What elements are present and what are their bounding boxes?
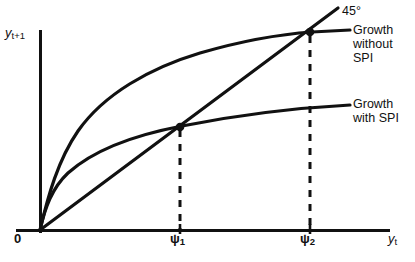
growth-spi-diagram: yt+1 yt 0 ψ1 ψ2 45° Growth without SPI G… [0, 0, 415, 262]
x-axis-label: yt [388, 232, 397, 248]
curve-growth-without-spi [40, 30, 350, 230]
y-axis-label: yt+1 [5, 26, 25, 42]
y-axis-label-subscript: t+1 [12, 30, 25, 41]
annotation-growth-without-spi: Growth without SPI [353, 23, 393, 65]
equilibrium-dot-psi1 [176, 123, 185, 132]
tick-label-psi2: ψ2 [300, 232, 315, 248]
tick-label-psi1-subscript: 1 [180, 236, 185, 247]
annotation-45-degree: 45° [342, 4, 361, 18]
tick-label-psi1: ψ1 [170, 232, 185, 248]
tick-label-psi2-subscript: 2 [310, 236, 315, 247]
tick-label-psi2-symbol: ψ [300, 231, 310, 246]
curve-growth-with-spi [40, 105, 350, 230]
equilibrium-dot-psi2 [306, 28, 315, 37]
annotation-growth-with-spi: Growth with SPI [353, 97, 399, 125]
tick-label-psi1-symbol: ψ [170, 231, 180, 246]
x-axis-label-subscript: t [395, 236, 398, 247]
origin-label: 0 [14, 232, 21, 247]
line-45-degree [40, 8, 338, 230]
